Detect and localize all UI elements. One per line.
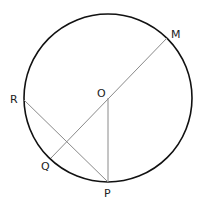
label-m: M (171, 28, 181, 41)
label-q: Q (41, 160, 50, 173)
label-r: R (10, 93, 18, 106)
geometry-diagram: M O R Q P (0, 0, 204, 206)
segment-mq (51, 38, 167, 158)
label-o: O (97, 87, 106, 100)
label-p: P (104, 187, 111, 200)
